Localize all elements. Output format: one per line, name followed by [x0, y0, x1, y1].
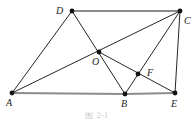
vertex-label-O: O — [92, 57, 99, 67]
segment-AB — [12, 93, 125, 94]
vertex-F — [136, 72, 141, 77]
vertex-A — [10, 91, 15, 96]
segment-BE — [125, 93, 175, 94]
vertex-O — [97, 50, 102, 55]
vertex-label-A: A — [6, 98, 12, 108]
vertex-label-F: F — [147, 68, 153, 78]
vertex-C — [178, 9, 183, 14]
vertex-label-E: E — [171, 99, 177, 109]
segment-layer — [12, 11, 180, 94]
segment-AD — [12, 11, 72, 93]
geometry-figure: ABCDEFO 图 2-1 — [0, 0, 194, 125]
vertex-label-D: D — [56, 6, 63, 16]
figure-caption: 图 2-1 — [0, 112, 194, 121]
vertex-D — [70, 9, 75, 14]
segment-AC — [12, 11, 180, 93]
vertex-label-C: C — [184, 16, 191, 26]
vertex-B — [123, 92, 128, 97]
vertex-label-B: B — [121, 99, 127, 109]
vertex-E — [173, 91, 178, 96]
segment-CB — [125, 11, 180, 94]
segment-CE — [175, 11, 180, 93]
